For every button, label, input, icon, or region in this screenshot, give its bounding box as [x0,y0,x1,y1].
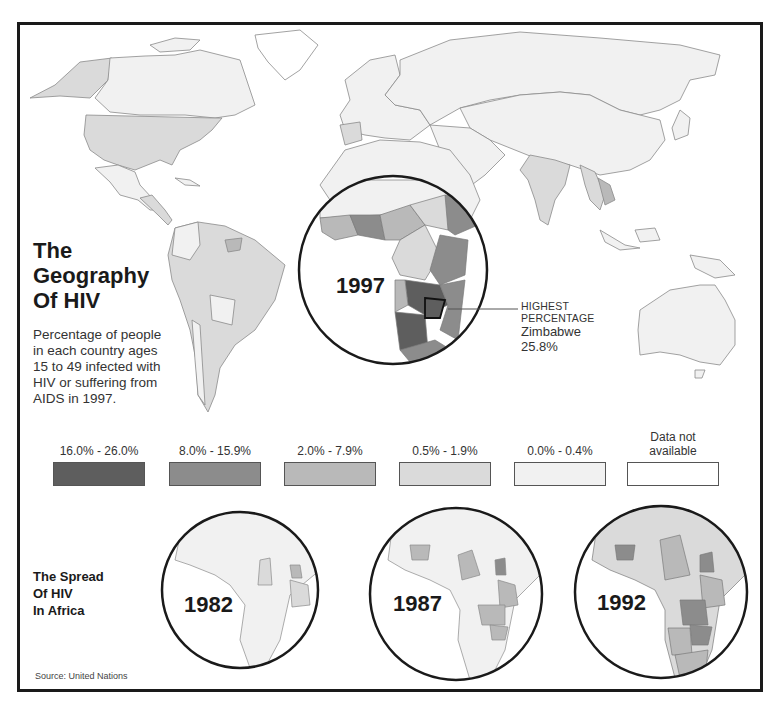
legend-swatch [627,462,719,486]
legend-item: Data not available [627,424,719,486]
legend-swatch [399,462,491,486]
legend-item: 2.0% - 7.9% [284,424,376,486]
spread-title-line: Of HIV [33,585,104,602]
country-spain [340,122,362,145]
map-subtitle: Percentage of people in each country age… [33,327,193,407]
subtitle-line: HIV or suffering from [33,375,193,391]
legend-label: 0.5% - 1.9% [399,444,491,458]
callout-label: PERCENTAGE [521,312,595,324]
legend-label: Data not available [627,430,719,458]
inset-1982-year: 1982 [184,592,233,617]
subtitle-line: Percentage of people [33,327,193,343]
source-note: Source: United Nations [35,671,128,681]
spread-title-line: In Africa [33,602,104,619]
title-line: Of HIV [33,288,149,313]
legend-item: 0.0% - 0.4% [514,424,606,486]
country-india [520,155,570,225]
country-australia [638,285,735,365]
inset-1997-year: 1997 [336,273,385,298]
highest-percentage-callout: HIGHEST PERCENTAGE Zimbabwe 25.8% [521,300,595,354]
legend-label: 0.0% - 0.4% [514,444,606,458]
country-usa [84,115,222,170]
legend-label: 16.0% - 26.0% [53,444,145,458]
country-canada [95,50,255,118]
subtitle-line: in each country ages [33,343,193,359]
callout-label: HIGHEST [521,300,595,312]
title-line: Geography [33,263,149,288]
legend-item: 8.0% - 15.9% [169,424,261,486]
country-greenland [255,30,318,80]
legend-item: 0.5% - 1.9% [399,424,491,486]
legend-swatch [169,462,261,486]
legend-swatch [514,462,606,486]
legend-swatch [284,462,376,486]
spread-title: The Spread Of HIV In Africa [33,568,104,619]
inset-1987-year: 1987 [393,591,442,616]
legend-label: 2.0% - 7.9% [284,444,376,458]
inset-1992-year: 1992 [597,590,646,615]
title-line: The [33,238,149,263]
callout-value: 25.8% [521,339,595,354]
legend-item: 16.0% - 26.0% [53,424,145,486]
legend-swatch [53,462,145,486]
map-title: The Geography Of HIV [33,238,149,313]
spread-title-line: The Spread [33,568,104,585]
legend-label: 8.0% - 15.9% [169,444,261,458]
subtitle-line: 15 to 49 infected with [33,359,193,375]
subtitle-line: AIDS in 1997. [33,391,193,407]
callout-country: Zimbabwe [521,324,595,339]
